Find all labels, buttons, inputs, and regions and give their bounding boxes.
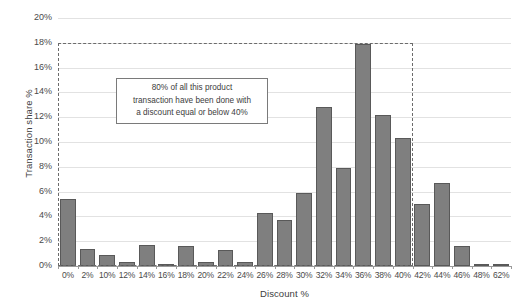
bar [355, 44, 371, 266]
x-axis-tick [97, 266, 98, 269]
x-axis-tick-label: 36% [353, 270, 373, 280]
x-axis-tick [373, 266, 374, 269]
x-axis-tick-label: 16% [156, 270, 176, 280]
x-axis-tick-label: 38% [373, 270, 393, 280]
x-axis-tick [452, 266, 453, 269]
bar [434, 183, 450, 266]
x-axis-tick [314, 266, 315, 269]
bar [60, 199, 76, 266]
x-axis-tick [156, 266, 157, 269]
bar [296, 193, 312, 266]
bar [99, 255, 115, 266]
x-axis-tick-label: 32% [314, 270, 334, 280]
x-axis-tick-label: 62% [491, 270, 511, 280]
x-axis-tick-label: 34% [334, 270, 354, 280]
bar [375, 115, 391, 266]
x-axis-tick [334, 266, 335, 269]
bar [80, 249, 96, 266]
x-axis-tick-label: 10% [97, 270, 117, 280]
x-axis-tick-label: 0% [58, 270, 78, 280]
x-axis-tick-label: 46% [452, 270, 472, 280]
x-axis-tick [432, 266, 433, 269]
x-axis-tick [413, 266, 414, 269]
x-axis-tick [137, 266, 138, 269]
bar [257, 213, 273, 266]
bar [395, 138, 411, 266]
x-axis-tick-label: 40% [393, 270, 413, 280]
x-axis-tick-labels: 0%2%10%12%14%16%18%20%22%24%26%28%30%32%… [58, 266, 511, 288]
x-axis-tick [472, 266, 473, 269]
x-axis-tick [78, 266, 79, 269]
x-axis-tick-label: 24% [235, 270, 255, 280]
annotation-callout: 80% of all this product transaction have… [116, 78, 268, 124]
x-axis-tick [117, 266, 118, 269]
x-axis-tick [491, 266, 492, 269]
bar [316, 107, 332, 266]
x-axis-tick-label: 18% [176, 270, 196, 280]
x-axis-tick-label: 14% [137, 270, 157, 280]
y-axis-tick-label: 18% [8, 37, 52, 47]
x-axis-tick-label: 2% [78, 270, 98, 280]
x-axis-tick [176, 266, 177, 269]
x-axis-tick-label: 28% [275, 270, 295, 280]
bar [277, 220, 293, 266]
x-axis-tick [275, 266, 276, 269]
annotation-text: 80% of all this product transaction have… [133, 82, 251, 120]
x-axis-tick [235, 266, 236, 269]
bar-series [58, 18, 511, 266]
chart-container: Transaction share % 0%2%4%6%8%10%12%14%1… [0, 0, 522, 308]
x-axis-tick [353, 266, 354, 269]
x-axis-tick-label: 20% [196, 270, 216, 280]
x-axis-tick [294, 266, 295, 269]
bar [414, 204, 430, 266]
bar [336, 168, 352, 266]
x-axis-tick [511, 266, 512, 269]
x-axis-tick [216, 266, 217, 269]
x-axis-tick-label: 44% [432, 270, 452, 280]
y-axis-tick-label: 0% [8, 260, 52, 270]
bar [454, 246, 470, 266]
y-axis-tick-label: 6% [8, 186, 52, 196]
x-axis-tick-label: 30% [294, 270, 314, 280]
x-axis-tick-label: 48% [472, 270, 492, 280]
y-axis-tick-label: 8% [8, 161, 52, 171]
y-axis-tick-label: 10% [8, 136, 52, 146]
x-axis-tick-label: 22% [216, 270, 236, 280]
x-axis-tick-label: 26% [255, 270, 275, 280]
x-axis-tick-label: 12% [117, 270, 137, 280]
x-axis-tick-label: 42% [413, 270, 433, 280]
y-axis-tick-label: 16% [8, 62, 52, 72]
bar [218, 250, 234, 266]
x-axis-tick [58, 266, 59, 269]
y-axis-tick-label: 4% [8, 210, 52, 220]
y-axis-tick-label: 20% [8, 12, 52, 22]
x-axis-tick [393, 266, 394, 269]
plot-area [58, 18, 511, 266]
bar [178, 246, 194, 266]
x-axis-title: Discount % [58, 288, 511, 299]
x-axis-tick [255, 266, 256, 269]
y-axis-tick-label: 2% [8, 235, 52, 245]
y-axis-tick-label: 12% [8, 111, 52, 121]
bar [139, 245, 155, 266]
x-axis-tick [196, 266, 197, 269]
y-axis-tick-label: 14% [8, 86, 52, 96]
